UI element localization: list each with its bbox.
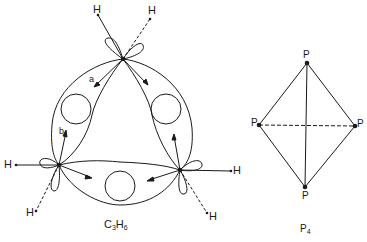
carbon-left xyxy=(57,163,61,167)
label-vector-a: a xyxy=(89,75,94,84)
ch-lobe-top-left xyxy=(105,38,123,59)
ch-lobe-right-2 xyxy=(179,170,187,194)
bond-c-h-right-bottom xyxy=(180,170,207,213)
bond-c-h-top-left xyxy=(98,15,123,59)
diagram-canvas xyxy=(0,0,367,242)
back-lobe-right xyxy=(151,94,181,124)
ch-lobe-top-right xyxy=(123,43,143,59)
label-p-top: P xyxy=(303,50,310,60)
label-h-right: H xyxy=(233,165,241,176)
bent-bond-bottom-inner xyxy=(59,161,180,170)
bond-c-h-top-right xyxy=(123,19,150,59)
arrow-a-icon xyxy=(94,82,100,87)
caption-p4: P4 xyxy=(300,224,311,235)
label-h-left-bottom: H xyxy=(26,207,34,218)
cyclopropane-orbitals xyxy=(40,38,202,205)
hybrid-vectors xyxy=(59,59,180,181)
label-h-right-bottom: H xyxy=(209,211,217,222)
bent-bond-right-outer xyxy=(123,59,192,170)
caption-c3h6: C3H6 xyxy=(104,219,128,231)
label-h-left: H xyxy=(4,159,12,170)
label-p-left: P xyxy=(251,118,258,128)
label-h-top-left: H xyxy=(93,4,101,15)
back-lobe-bottom xyxy=(105,171,135,201)
carbon-top xyxy=(121,57,125,61)
label-p-bottom: P xyxy=(302,191,309,201)
carbon-right xyxy=(178,168,182,172)
label-p-right: P xyxy=(357,119,364,129)
ch-lobe-right-1 xyxy=(180,161,202,171)
atom-dots xyxy=(15,14,233,215)
back-lobe-left xyxy=(61,94,91,124)
label-vector-b: b xyxy=(59,127,64,136)
p4-tetrahedron xyxy=(259,63,355,187)
label-h-top-right: H xyxy=(148,5,156,16)
bond-c-h-left-bottom xyxy=(36,165,59,211)
bent-bond-right-inner xyxy=(123,59,180,170)
ch-lobe-left-2 xyxy=(51,165,59,191)
ch-bonds xyxy=(16,15,231,213)
